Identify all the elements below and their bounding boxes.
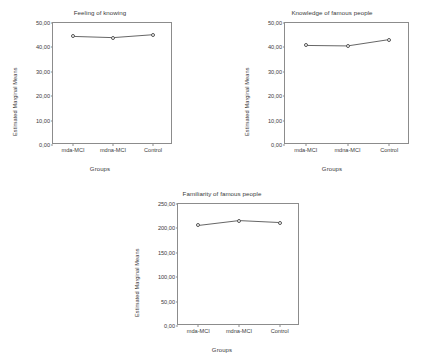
x-axis-tick-label: mdna-MCI: [226, 328, 252, 334]
data-point-marker: [71, 34, 75, 38]
x-axis-label: Groups: [232, 166, 432, 172]
plot-area-familiarity-of-famous-people: 0,0050,00100,00150,00200,00250,00mda-MCI…: [177, 203, 299, 325]
y-axis-label: Estimated Marginal Means: [134, 248, 140, 317]
data-point-marker: [304, 43, 308, 47]
chart-panel-knowledge-of-famous-people: Knowledge of famous peopleEstimated Marg…: [232, 0, 432, 181]
data-point-marker: [111, 36, 115, 40]
chart-panel-feeling-of-knowing: Feeling of knowingEstimated Marginal Mea…: [0, 0, 200, 181]
x-axis-tick-label: Control: [144, 147, 162, 153]
data-point-marker: [346, 44, 350, 48]
x-axis-label: Groups: [122, 347, 322, 353]
data-point-marker: [196, 223, 200, 227]
chart-title: Feeling of knowing: [0, 9, 200, 16]
x-axis-tick-label: mda-MCI: [294, 147, 317, 153]
y-axis-label: Estimated Marginal Means: [12, 67, 18, 136]
y-axis-label: Estimated Marginal Means: [244, 67, 250, 136]
series-line: [285, 23, 410, 145]
data-point-marker: [237, 219, 241, 223]
chart-title: Familiarity of famous people: [122, 190, 322, 197]
x-axis-label: Groups: [0, 166, 200, 172]
x-axis-tick-label: mdna-MCI: [334, 147, 360, 153]
x-axis-tick-label: mda-MCI: [187, 328, 210, 334]
plot-area-knowledge-of-famous-people: 0,0010,0020,0030,0040,0050,00mda-MCImdna…: [284, 22, 409, 144]
data-point-marker: [278, 221, 282, 225]
series-line: [53, 23, 173, 145]
x-axis-tick-label: Control: [271, 328, 289, 334]
chart-panel-familiarity-of-famous-people: Familiarity of famous peopleEstimated Ma…: [122, 181, 322, 362]
x-axis-tick-label: Control: [380, 147, 398, 153]
plot-area-feeling-of-knowing: 0,0010,0020,0030,0040,0050,00mda-MCImdna…: [52, 22, 172, 144]
data-point-marker: [387, 38, 391, 42]
data-point-marker: [151, 33, 155, 37]
x-axis-tick-label: mda-MCI: [62, 147, 85, 153]
chart-title: Knowledge of famous people: [232, 9, 432, 16]
x-axis-tick-label: mdna-MCI: [100, 147, 126, 153]
